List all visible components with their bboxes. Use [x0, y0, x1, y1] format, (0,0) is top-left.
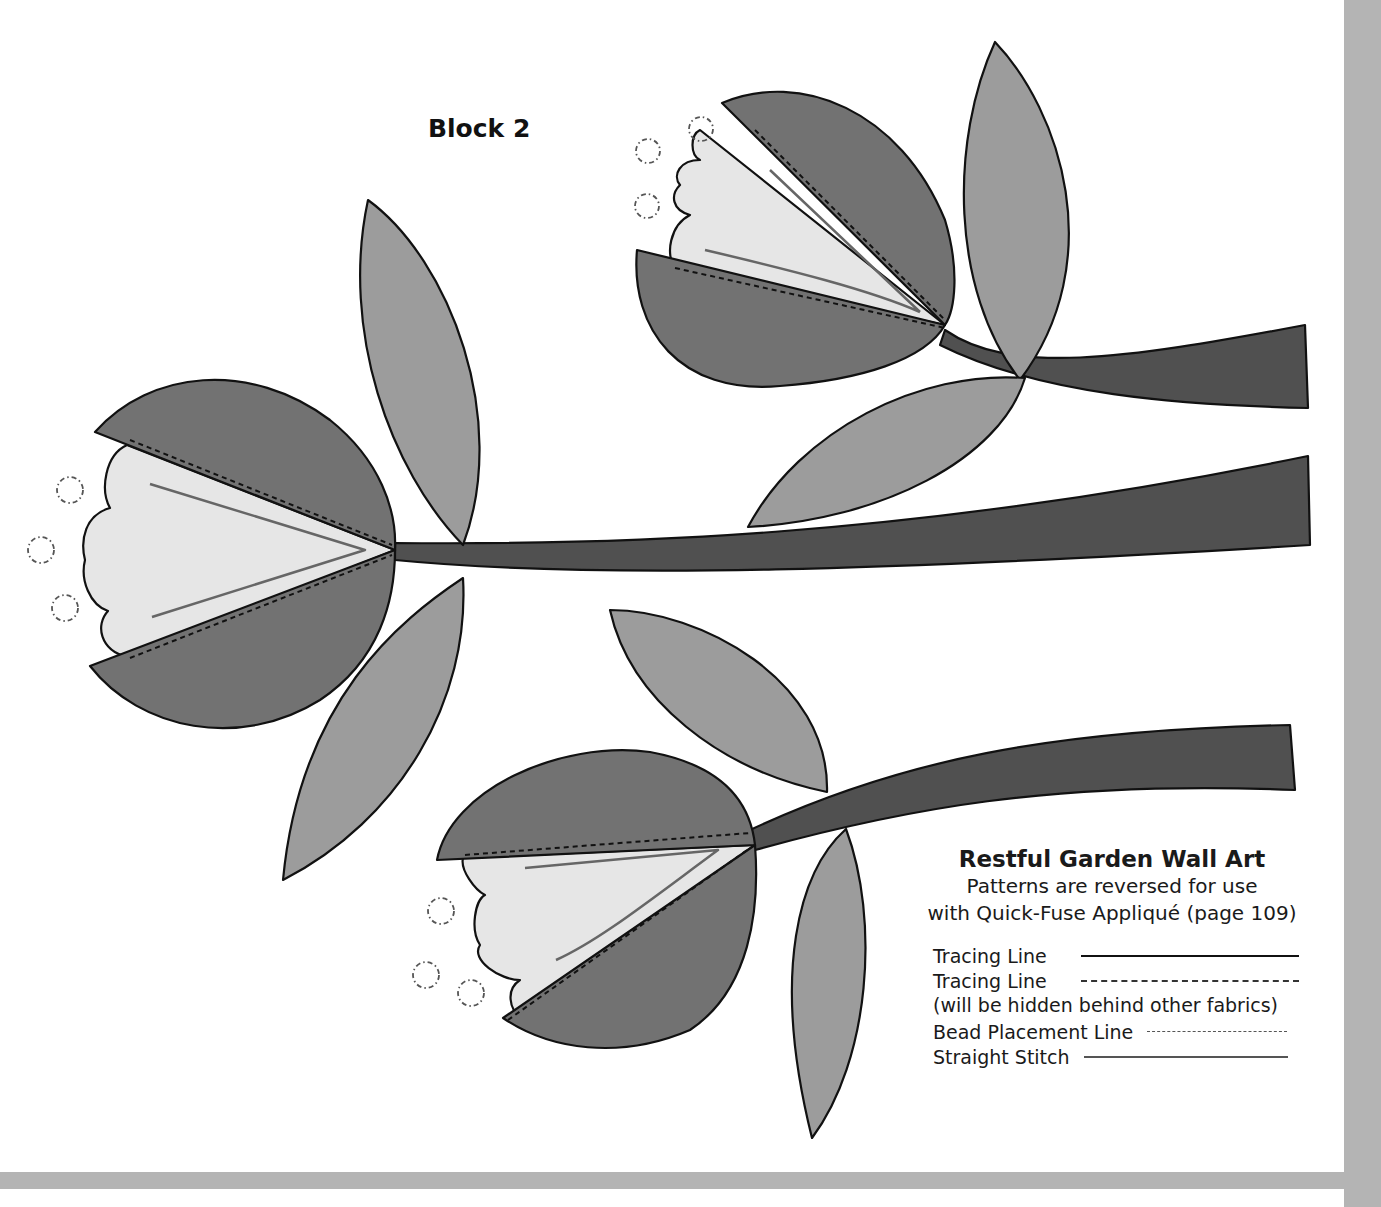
solid-line-sample	[1081, 955, 1299, 957]
bottom-bead-circles	[413, 898, 484, 1006]
middle-bead-circles	[28, 477, 83, 621]
legend-label: Tracing Line	[933, 970, 1047, 992]
legend-label: Bead Placement Line	[933, 1021, 1133, 1043]
legend-row-bead-placement: Bead Placement Line	[933, 1019, 1332, 1044]
page-edge-right-bar	[1344, 0, 1381, 1207]
legend-row-tracing-dashed: Tracing Line	[933, 968, 1332, 993]
top-upper-leaf	[964, 42, 1069, 380]
dash-dot-line-sample	[1147, 1031, 1287, 1032]
legend-row-tracing-solid: Tracing Line	[933, 943, 1332, 968]
pattern-subtitle-line2: with Quick-Fuse Appliqué (page 109)	[892, 900, 1332, 927]
stitch-line-sample	[1084, 1056, 1288, 1058]
legend-panel: Restful Garden Wall Art Patterns are rev…	[892, 845, 1332, 1069]
bottom-stem	[750, 725, 1295, 850]
top-flower	[635, 42, 1308, 527]
pattern-title: Restful Garden Wall Art	[892, 845, 1332, 873]
pattern-subtitle-line1: Patterns are reversed for use	[892, 873, 1332, 900]
legend-label: Tracing Line	[933, 945, 1047, 967]
block-title: Block 2	[428, 114, 530, 143]
bottom-upper-petal	[437, 750, 755, 860]
legend-row-straight-stitch: Straight Stitch	[933, 1044, 1332, 1069]
page-edge-bottom-bar	[0, 1172, 1344, 1189]
bottom-lower-leaf	[792, 829, 866, 1138]
top-lower-leaf	[748, 377, 1025, 527]
legend-label: Straight Stitch	[933, 1046, 1070, 1068]
dashed-line-sample	[1081, 980, 1299, 982]
legend-note: (will be hidden behind other fabrics)	[933, 993, 1332, 1019]
